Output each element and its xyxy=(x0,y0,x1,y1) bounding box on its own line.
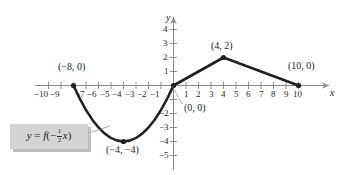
curve-ascending-segment xyxy=(174,58,224,86)
x-tick-label-neg10: −10 xyxy=(34,90,48,99)
point-label-0-0: (0, 0) xyxy=(184,103,206,113)
y-tick-label-4: 4 xyxy=(163,25,168,34)
x-tick-label-2: 2 xyxy=(196,90,201,99)
x-tick-label-neg5: −5 xyxy=(100,90,110,99)
x-axis-label: x xyxy=(330,88,334,98)
equation-close-paren: ) xyxy=(68,129,72,141)
x-tick-label-8: 8 xyxy=(271,90,276,99)
y-tick-label-neg2: −2 xyxy=(159,109,169,118)
point-label-10-0: (10, 0) xyxy=(288,61,315,71)
x-tick-label-9: 9 xyxy=(284,90,289,99)
equation-fraction-denominator: 2 xyxy=(57,136,63,144)
x-tick-label-10: 10 xyxy=(293,90,302,99)
equation-fraction: 12 xyxy=(57,128,63,144)
marked-point-10-0 xyxy=(296,83,301,88)
x-tick-label-neg7: −7 xyxy=(75,90,85,99)
marked-point-4-2 xyxy=(221,55,226,60)
x-tick-label-1: 1 xyxy=(184,90,189,99)
point-label-neg4-neg4: (−4, −4) xyxy=(106,145,139,155)
marked-point-0-0 xyxy=(171,83,176,88)
marked-point-neg8-0 xyxy=(71,83,76,88)
point-label-neg8-0: (−8, 0) xyxy=(58,62,85,72)
y-tick-label-neg4: −4 xyxy=(159,137,169,146)
y-tick-label-neg5: −5 xyxy=(159,151,169,160)
x-tick-label-7: 7 xyxy=(259,90,264,99)
x-tick-label-4: 4 xyxy=(221,90,226,99)
y-axis-label: y xyxy=(166,13,170,23)
y-tick-label-3: 3 xyxy=(163,39,168,48)
y-tick-label-1: 1 xyxy=(164,67,169,76)
x-tick-label-5: 5 xyxy=(234,90,239,99)
x-tick-label-6: 6 xyxy=(246,90,251,99)
graph-figure: −10 −9 −7 −6 −5 −4 −3 −2 −1 1 2 3 4 5 6 … xyxy=(0,0,345,175)
x-tick-label-3: 3 xyxy=(209,90,214,99)
equation-equals: = xyxy=(32,129,44,141)
x-tick-label-neg1: −1 xyxy=(150,90,160,99)
x-tick-label-neg6: −6 xyxy=(87,90,97,99)
y-tick-label-2: 2 xyxy=(163,53,168,62)
equation-minus: − xyxy=(50,129,56,141)
equation-callout-box: y = f(−12x) xyxy=(10,124,88,149)
equation-fraction-numerator: 1 xyxy=(57,128,63,135)
x-tick-label-neg9: −9 xyxy=(50,90,60,99)
x-axis xyxy=(35,82,329,89)
y-tick-label-neg3: −3 xyxy=(159,123,169,132)
x-tick-label-neg3: −3 xyxy=(125,90,135,99)
point-label-4-2: (4, 2) xyxy=(211,41,233,51)
equation-text: y = f(−12x) xyxy=(27,129,72,145)
x-tick-label-neg4: −4 xyxy=(112,90,122,99)
x-tick-label-neg2: −2 xyxy=(137,90,147,99)
